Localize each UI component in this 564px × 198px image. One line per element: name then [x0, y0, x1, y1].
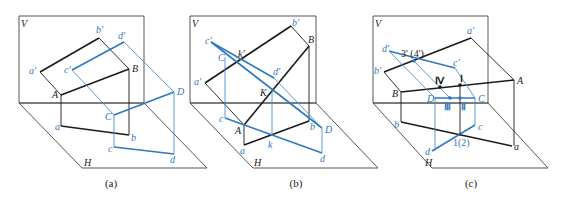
label-A: A	[51, 89, 59, 100]
label-a: a	[514, 141, 519, 152]
h-label: H	[253, 157, 262, 168]
label-IV: Ⅳ	[435, 75, 445, 86]
label-k-prime: k'	[238, 48, 245, 59]
v-label: V	[375, 18, 383, 29]
h-label: H	[83, 157, 92, 168]
label-A: A	[516, 75, 524, 86]
h-plane	[19, 103, 207, 168]
label-d-prime: d'	[118, 30, 126, 41]
label-d: d	[425, 146, 431, 157]
line-cd	[114, 147, 174, 154]
label-b-prime: b'	[292, 17, 300, 28]
label-b-prime: b'	[374, 65, 382, 76]
line-ab	[61, 126, 129, 135]
label-d: d	[170, 154, 176, 165]
label-II: Ⅱ	[461, 101, 466, 112]
label-C: C	[105, 111, 112, 122]
label-d-prime: d'	[382, 43, 390, 54]
caption-c: (c)	[465, 177, 478, 190]
line-ab	[244, 121, 309, 145]
label-c-prime: c'	[64, 64, 71, 75]
label-c: c	[108, 143, 113, 154]
label-c: c	[478, 121, 483, 132]
label-B: B	[132, 63, 138, 74]
v-label: V	[21, 18, 29, 29]
projector-a	[471, 38, 514, 80]
label-D: D	[176, 86, 185, 97]
label-b-prime: b'	[96, 24, 104, 35]
point-3-prime	[412, 59, 415, 62]
label-d-prime: d'	[273, 66, 281, 77]
caption-b: (b)	[290, 177, 303, 190]
label-c-prime: c'	[453, 57, 460, 68]
line-AB	[244, 46, 309, 125]
panel-a: V H a' b' A B a b c' d' C D c d (a)	[19, 16, 207, 190]
label-a: a	[55, 121, 60, 132]
label-B: B	[392, 88, 398, 99]
line-BA	[401, 80, 514, 92]
label-3-4-prime: 3' (4')	[401, 48, 424, 60]
v-label: V	[192, 18, 200, 29]
label-b: b	[131, 132, 136, 143]
label-B: B	[308, 34, 314, 45]
v-plane	[19, 16, 144, 103]
label-b: b	[394, 119, 399, 130]
label-D: D	[426, 93, 435, 104]
panel-c: V H a' b' A B b a d' c' D C d c 3' (4') …	[373, 16, 548, 190]
label-a-prime: a'	[194, 76, 202, 87]
label-I: Ⅰ	[460, 73, 463, 84]
point-II	[458, 96, 462, 100]
label-D: D	[324, 124, 333, 135]
label-a-prime: a'	[467, 25, 475, 36]
line-c-prime-D	[211, 42, 322, 128]
label-d: d	[320, 153, 326, 164]
label-a-prime: a'	[29, 65, 37, 76]
label-c-prime: c'	[205, 35, 212, 46]
label-c: c	[219, 113, 224, 124]
label-b: b	[310, 121, 315, 132]
label-C: C	[478, 93, 485, 104]
projector-a	[205, 83, 244, 125]
label-k: k	[268, 139, 273, 150]
label-C: C	[218, 52, 225, 63]
projection-diagram: V H a' b' A B a b c' d' C D c d (a)	[0, 0, 564, 198]
h-label: H	[424, 157, 433, 168]
projector-b	[291, 26, 309, 46]
projector-c	[455, 68, 475, 98]
panel-b: V H a' b' A B a b c' d' C D c d k' K k (…	[190, 16, 378, 190]
label-III: Ⅲ	[444, 101, 451, 112]
label-K: K	[259, 87, 268, 98]
line-AB	[61, 69, 129, 95]
caption-a: (a)	[105, 177, 118, 190]
label-1-2: 1(2)	[453, 137, 470, 149]
label-A: A	[234, 125, 242, 136]
label-a: a	[240, 145, 245, 156]
point-III	[448, 96, 452, 100]
